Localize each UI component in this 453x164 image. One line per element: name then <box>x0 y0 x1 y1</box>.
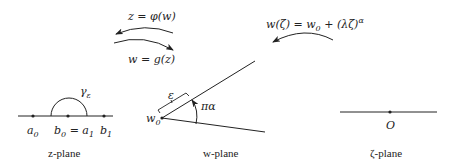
arrow-z-to-w <box>114 39 173 50</box>
label-pi-alpha: πα <box>200 100 216 113</box>
semicircle-gamma-eps <box>51 98 87 116</box>
label-b0-eq-a1: b0 = a1 <box>54 124 94 139</box>
svg-text:w(ζ) = w0 + (λζ)α: w(ζ) = w0 + (λζ)α <box>266 16 364 33</box>
origin-point <box>388 110 391 113</box>
w-plane-label: w-plane <box>203 147 239 159</box>
point-b1 <box>102 114 105 117</box>
zeta-plane-label: ζ-plane <box>370 147 402 160</box>
arrow-w-to-z <box>116 28 173 34</box>
map-label-w-zeta: w(ζ) = w0 + (λζ)α <box>266 16 364 33</box>
zeta-plane: O ζ-plane <box>340 110 437 160</box>
z-plane-label: z-plane <box>48 147 80 159</box>
label-a0: a0 <box>27 124 39 139</box>
label-gamma-eps: γε <box>80 85 91 100</box>
lower-ray <box>162 118 265 132</box>
vertex-w0 <box>160 116 163 119</box>
conformal-map-diagram: z = φ(w) w = g(z) w(ζ) = w0 + (λζ)α γε a… <box>0 0 453 164</box>
w-plane: ε πα w0 w-plane <box>146 61 265 159</box>
angle-arc <box>192 100 197 124</box>
point-b0-a1 <box>66 114 69 117</box>
map-label-w-g-z: w = g(z) <box>128 53 175 66</box>
label-epsilon: ε <box>168 89 174 102</box>
label-b1: b1 <box>100 124 112 139</box>
arrow-zeta-to-w <box>273 33 333 42</box>
point-a0 <box>31 114 34 117</box>
z-plane: γε a0 b0 = a1 b1 z-plane <box>18 85 113 159</box>
map-label-z-phi-w: z = φ(w) <box>127 10 176 23</box>
label-origin: O <box>386 119 395 132</box>
label-w0: w0 <box>146 112 161 127</box>
